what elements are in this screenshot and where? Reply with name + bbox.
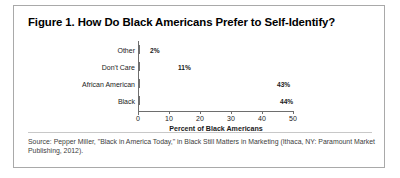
- bar-value-label: 11%: [178, 63, 191, 70]
- x-axis-tick: [293, 112, 294, 114]
- x-axis-tick: [262, 112, 263, 114]
- x-axis-tick: [169, 112, 170, 114]
- x-axis-tick: [200, 112, 201, 114]
- x-axis-tick-label: 30: [227, 115, 235, 122]
- bar-row: Black 44%: [139, 96, 275, 105]
- x-axis-tick-label: 50: [289, 115, 297, 122]
- category-label: Black: [118, 97, 135, 104]
- category-label: Don't Care: [102, 63, 135, 70]
- source-note: Source: Pepper Miller, "Black in America…: [28, 137, 376, 155]
- page-title: Figure 1. How Do Black Americans Prefer …: [28, 16, 372, 28]
- x-axis-tick-label: 0: [136, 115, 140, 122]
- bar-row: African American 43%: [139, 79, 272, 88]
- bar: [139, 79, 140, 88]
- source-line-1: Source: Pepper Miller, "Black in America…: [28, 138, 316, 145]
- bar-row: Don't Care 11%: [139, 62, 173, 71]
- x-axis-tick: [231, 112, 232, 114]
- plot-area: Other 2% Don't Care 11% African American…: [138, 44, 293, 112]
- x-axis-tick: [138, 112, 139, 114]
- bar: [139, 62, 140, 71]
- x-axis-tick-label: 40: [258, 115, 266, 122]
- bar-value-label: 2%: [150, 46, 160, 53]
- x-axis-tick-label: 20: [196, 115, 204, 122]
- source-divider: [28, 132, 372, 133]
- category-label: Other: [117, 46, 135, 53]
- bar-row: Other 2%: [139, 45, 145, 54]
- bar: [139, 96, 140, 105]
- category-label: African American: [82, 80, 135, 87]
- bar-chart: Other 2% Don't Care 11% African American…: [14, 39, 384, 131]
- bar: [139, 45, 140, 54]
- bar-value-label: 43%: [277, 80, 290, 87]
- bar-value-label: 44%: [280, 97, 293, 104]
- figure-container: Figure 1. How Do Black Americans Prefer …: [13, 5, 385, 168]
- x-axis-line: [138, 111, 294, 112]
- x-axis-tick-label: 10: [165, 115, 173, 122]
